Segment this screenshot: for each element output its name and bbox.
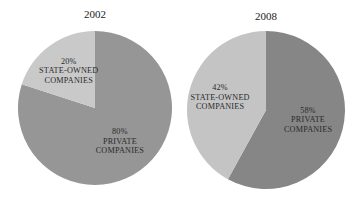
pie-title: 2002 <box>84 8 106 20</box>
pie-title: 2008 <box>255 10 278 22</box>
pie-charts: 200280%PRIVATECOMPANIES20%STATE-OWNEDCOM… <box>0 0 359 201</box>
pie-2008: 200858%PRIVATECOMPANIES42%STATE-OWNEDCOM… <box>187 10 345 189</box>
pie-2002: 200280%PRIVATECOMPANIES20%STATE-OWNEDCOM… <box>18 8 172 185</box>
